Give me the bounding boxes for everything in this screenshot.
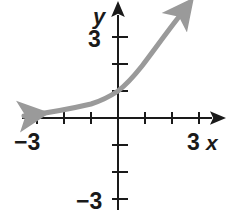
exponential-graph-figure: y x 3 −3 −3 3 [0, 0, 227, 215]
coordinate-plane [0, 0, 227, 215]
x-tick-label-3: 3 [187, 131, 200, 154]
x-tick-label-negative-3: −3 [14, 131, 40, 154]
y-tick-label-3: 3 [88, 28, 101, 51]
exponential-curve [24, 18, 178, 116]
x-axis-label: x [206, 132, 218, 153]
y-axis-label: y [93, 6, 105, 28]
y-tick-label-negative-3: −3 [76, 190, 102, 213]
